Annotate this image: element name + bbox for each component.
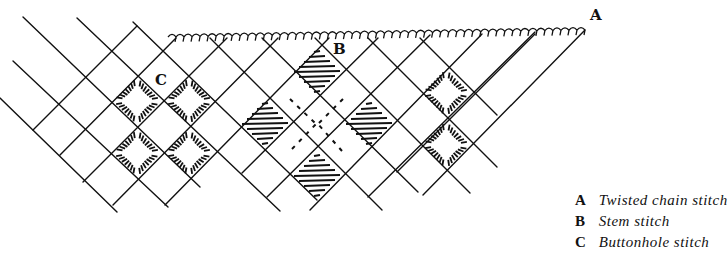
buttonhole-tick: [169, 97, 175, 98]
buttonhole-tick: [152, 150, 158, 151]
buttonhole-tick: [428, 97, 434, 99]
buttonhole-tick: [183, 135, 185, 141]
buttonhole-tick: [440, 105, 442, 111]
buttonhole-tick: [460, 148, 466, 149]
stem-hatch: [247, 128, 283, 129]
buttonhole-tick: [197, 109, 201, 113]
stem-hatch: [314, 195, 320, 196]
buttonhole-tick: [117, 149, 123, 150]
buttonhole-tick: [128, 111, 131, 116]
buttonhole-tick: [197, 89, 201, 93]
legend-text: Stem stitch: [599, 213, 670, 229]
buttonhole-tick: [442, 159, 443, 165]
stem-hatch: [299, 180, 335, 181]
stem-hatch: [304, 61, 330, 62]
buttonhole-tick: [147, 144, 152, 147]
legend-text: Twisted chain stitch: [599, 192, 728, 208]
grid-line: [315, 38, 470, 193]
buttonhole-tick: [180, 86, 183, 91]
buttonhole-tick: [177, 161, 181, 165]
buttonhole-tick: [149, 95, 155, 97]
buttonhole-tick: [119, 95, 125, 97]
buttonhole-tick: [125, 89, 129, 93]
buttonhole-tick: [440, 157, 442, 163]
stem-hatch: [309, 86, 325, 87]
legend-item-a: A Twisted chain stitch: [575, 190, 728, 211]
buttonhole-tick: [186, 132, 187, 138]
buttonhole-tick: [454, 133, 458, 137]
legend-item-b: B Stem stitch: [575, 211, 728, 232]
buttonhole-tick: [434, 153, 438, 157]
buttonhole-tick: [147, 159, 152, 162]
buttonhole-tick: [145, 89, 149, 93]
buttonhole-tick: [147, 107, 152, 110]
buttonhole-tick: [204, 150, 210, 151]
stem-hatch: [242, 123, 288, 124]
legend-key: A: [575, 190, 595, 211]
stem-hatch: [366, 103, 372, 104]
stem-hatch: [366, 143, 372, 144]
buttonhole-tick: [458, 87, 464, 89]
buttonhole-tick: [442, 107, 443, 113]
buttonhole-tick: [125, 161, 129, 165]
buttonhole-tick: [195, 163, 198, 168]
buttonhole-tick: [197, 141, 201, 145]
stem-hatch: [361, 138, 377, 139]
buttonhole-tick: [191, 116, 192, 122]
buttonhole-tick: [169, 149, 175, 150]
buttonhole-tick: [458, 149, 464, 151]
buttonhole-tick: [122, 159, 127, 162]
buttonhole-tick: [119, 105, 125, 107]
buttonhole-tick: [119, 157, 125, 159]
buttonhole-tick: [456, 151, 461, 154]
buttonhole-tick: [140, 133, 141, 139]
buttonhole-tick: [193, 135, 195, 141]
buttonhole-tick: [195, 138, 198, 143]
grid-line: [77, 18, 280, 211]
buttonhole-tick: [125, 141, 129, 145]
buttonhole-tick: [452, 130, 455, 135]
buttonhole-tick: [425, 95, 431, 96]
buttonhole-tick: [171, 95, 177, 97]
buttonhole-tick: [461, 142, 467, 143]
buttonhole-tick: [143, 86, 146, 91]
buttonhole-tick: [141, 135, 143, 141]
stem-hatch: [309, 56, 325, 57]
stem-hatch: [351, 128, 387, 129]
buttonhole-tick: [461, 90, 467, 91]
grid-line: [113, 38, 278, 205]
buttonhole-tick: [425, 147, 431, 148]
buttonhole-tick: [149, 157, 155, 159]
stem-hatch: [299, 66, 335, 67]
buttonhole-tick: [201, 157, 207, 159]
buttonhole-tick: [133, 167, 134, 173]
buttonhole-tick: [434, 101, 438, 105]
stem-hatch: [294, 175, 340, 176]
grid-line: [310, 34, 482, 210]
stem-hatch: [304, 165, 330, 166]
stem-hatch: [356, 113, 382, 114]
buttonhole-tick: [450, 157, 452, 163]
stem-dash: [318, 124, 342, 151]
legend-key: C: [575, 232, 595, 253]
stem-hatch: [299, 76, 335, 77]
stem-hatch: [304, 185, 330, 186]
buttonhole-tick: [449, 125, 450, 131]
buttonhole-tick: [199, 159, 204, 162]
buttonhole-tick: [201, 105, 207, 107]
grid-line: [423, 30, 585, 195]
buttonhole-tick: [117, 97, 123, 98]
buttonhole-tick: [448, 108, 449, 114]
buttonhole-tick: [426, 141, 432, 142]
lattice-grid: [0, 17, 585, 212]
buttonhole-tick: [201, 147, 207, 149]
stem-hatch: [309, 190, 325, 191]
buttonhole-tick: [143, 163, 146, 168]
buttonhole-tick: [116, 103, 122, 104]
grid-line: [368, 32, 535, 197]
buttonhole-tick: [134, 80, 135, 86]
buttonhole-tick: [145, 161, 149, 165]
buttonhole-tick: [143, 138, 146, 143]
buttonhole-tick: [450, 127, 452, 133]
buttonhole-tick: [193, 113, 195, 119]
